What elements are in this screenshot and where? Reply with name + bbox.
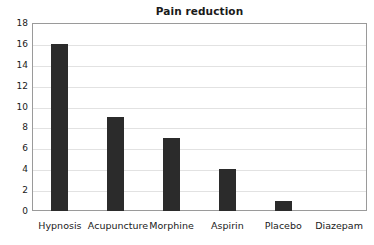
y-tick-label: 6 [0,144,28,153]
chart-title: Pain reduction [32,3,367,19]
x-axis: HypnosisAcupunctureMorphineAspirinPlaceb… [32,215,367,237]
y-tick-label: 4 [0,165,28,174]
gridline [33,128,366,129]
x-tick-label: Morphine [144,220,200,231]
y-tick-label: 8 [0,123,28,132]
y-tick-label: 12 [0,81,28,90]
plot-area [32,23,367,211]
y-axis: 181614121086420 [0,23,28,211]
gridline [33,66,366,67]
x-tick-label: Acupuncture [88,220,144,231]
gridline [33,108,366,109]
x-tick-label: Placebo [255,220,311,231]
x-tick-label: Hypnosis [32,220,88,231]
x-tick-label: Diazepam [311,220,367,231]
y-tick-label: 10 [0,102,28,111]
y-tick-label: 0 [0,207,28,216]
y-tick-label: 14 [0,60,28,69]
y-tick-label: 16 [0,39,28,48]
x-tick-label: Aspirin [200,220,256,231]
gridlines [33,24,366,210]
gridline [33,45,366,46]
gridline [33,170,366,171]
bar-chart-figure: Pain reduction 181614121086420 HypnosisA… [0,0,374,245]
y-tick-label: 2 [0,186,28,195]
gridline [33,87,366,88]
y-tick-label: 18 [0,19,28,28]
gridline [33,191,366,192]
gridline [33,149,366,150]
